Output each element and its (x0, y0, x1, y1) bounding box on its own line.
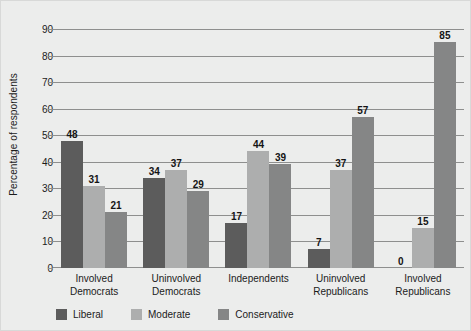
bar-conservative (352, 117, 374, 268)
legend-item-liberal[interactable]: Liberal (56, 309, 103, 320)
legend-label: Moderate (148, 309, 190, 320)
bar-liberal (225, 223, 247, 268)
y-axis-title-text: Percentage of respondents (8, 73, 19, 196)
legend-item-conservative[interactable]: Conservative (218, 309, 293, 320)
x-axis-label-line: Involved (53, 272, 135, 285)
bar-conservative (187, 191, 209, 268)
x-axis-label: InvolvedRepublicans (382, 272, 464, 298)
bar-moderate (330, 170, 352, 268)
bar-conservative (434, 42, 456, 268)
x-axis-label-line: Independents (217, 272, 299, 285)
bar-group: 01585 (382, 29, 464, 268)
plot-area: 4831213437291744397375701585 (53, 29, 464, 268)
bar-group: 73757 (300, 29, 382, 268)
x-axis-label-line: Democrats (135, 285, 217, 298)
bar-group: 343729 (135, 29, 217, 268)
bar-liberal (143, 178, 165, 268)
bar-chart: Percentage of respondents 01020304050607… (0, 0, 471, 331)
x-axis-label-line: Involved (382, 272, 464, 285)
bar-value-label: 39 (265, 152, 295, 163)
bar-conservative (105, 212, 127, 268)
bar-group: 174439 (217, 29, 299, 268)
x-axis-labels: InvolvedDemocratsUninvolvedDemocratsInde… (53, 272, 464, 306)
bar-value-label: 48 (57, 129, 87, 140)
bar-moderate (412, 228, 434, 268)
legend-label: Liberal (73, 309, 103, 320)
bar-liberal (61, 141, 83, 268)
x-axis-label-line: Republicans (300, 285, 382, 298)
bar-value-label: 44 (243, 139, 273, 150)
bar-value-label: 31 (79, 174, 109, 185)
legend-swatch-icon (131, 309, 142, 320)
bar-value-label: 37 (161, 158, 191, 169)
bar-moderate (83, 186, 105, 268)
bar-liberal (308, 249, 330, 268)
legend-label: Conservative (235, 309, 293, 320)
bar-moderate (247, 151, 269, 268)
bar-value-label: 29 (183, 179, 213, 190)
x-axis-label: UninvolvedDemocrats (135, 272, 217, 298)
y-tick-mark (48, 268, 53, 269)
bar-value-label: 21 (101, 200, 131, 211)
x-axis-label-line: Uninvolved (300, 272, 382, 285)
x-axis-label-line: Democrats (53, 285, 135, 298)
bar-value-label: 57 (348, 105, 378, 116)
bar-conservative (269, 164, 291, 268)
legend-item-moderate[interactable]: Moderate (131, 309, 190, 320)
y-axis-ticks: 0102030405060708090 (19, 29, 53, 268)
x-axis-label: InvolvedDemocrats (53, 272, 135, 298)
bar-group: 483121 (53, 29, 135, 268)
legend-swatch-icon (218, 309, 229, 320)
x-axis-label-line: Republicans (382, 285, 464, 298)
legend-swatch-icon (56, 309, 67, 320)
x-axis-label: Independents (217, 272, 299, 285)
bar-value-label: 85 (430, 30, 460, 41)
chart-legend: LiberalModerateConservative (56, 306, 322, 322)
x-axis-label-line: Uninvolved (135, 272, 217, 285)
x-axis-label: UninvolvedRepublicans (300, 272, 382, 298)
